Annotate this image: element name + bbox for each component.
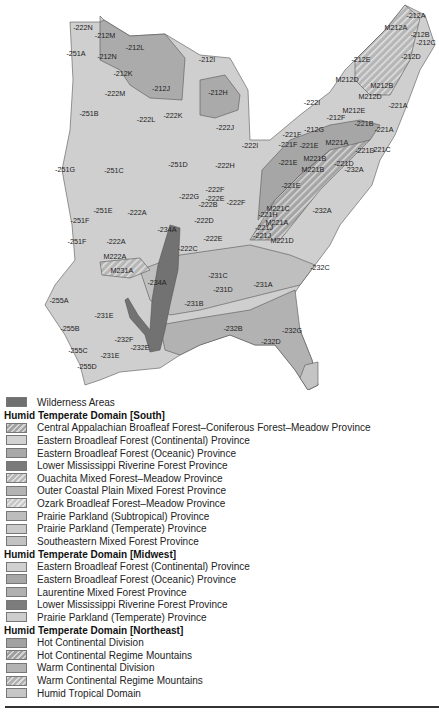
legend-group-title: Humid Temperate Domain [South] (4, 409, 436, 422)
color-swatch (6, 435, 27, 445)
legend-item: Prairie Parkland (Temperate) Province (6, 522, 436, 535)
region-label: -222H (215, 161, 235, 170)
region-label: -212N (97, 52, 117, 61)
region-label: -251F (71, 216, 90, 225)
legend-label: Eastern Broadleaf Forest (Continental) P… (37, 435, 250, 446)
color-swatch (6, 536, 27, 546)
legend-item: Eastern Broadleaf Forest (Oceanic) Provi… (6, 447, 436, 460)
region-label: -212E (351, 55, 370, 64)
region-label: -212F (327, 113, 346, 122)
region-label: -221E (299, 141, 318, 150)
region-label: -222B (198, 200, 217, 209)
region-label: -232B (223, 324, 242, 333)
legend-item: Laurentine Mixed Forest Province (6, 586, 436, 599)
region-label: -221E (278, 158, 297, 167)
region-label: -212K (113, 69, 132, 78)
region-label: M221A (326, 138, 349, 147)
color-swatch (6, 612, 27, 622)
color-swatch (6, 524, 27, 534)
legend-item: Outer Coastal Plain Mixed Forest Provinc… (6, 485, 436, 498)
legend-item: Humid Tropical Domain (6, 687, 436, 700)
color-swatch (6, 574, 27, 584)
region-label: -251A (66, 49, 85, 58)
region-label: -255C (68, 346, 88, 355)
region-label: -221B (354, 119, 373, 128)
legend-groups: Humid Temperate Domain [South]Central Ap… (6, 409, 436, 700)
region-label: M221D (270, 236, 293, 245)
legend-item: Prairie Parkland (Subtropical) Province (6, 510, 436, 523)
region-label: -221A (388, 101, 407, 110)
region-label: -212I (199, 55, 215, 64)
region-label: -255A (49, 296, 68, 305)
legend-item: Eastern Broadleaf Forest (Oceanic) Provi… (6, 573, 436, 586)
legend-group-title: Humid Temperate Domain [Northeast] (4, 624, 436, 637)
region-label: -232G (282, 326, 302, 335)
region-label: -222N (73, 23, 93, 32)
legend-item-wilderness: Wilderness Areas (6, 396, 436, 409)
region-label: -232A (344, 165, 363, 174)
region-label: -221A (374, 125, 393, 134)
region-label: -212A (406, 11, 425, 20)
color-swatch (6, 638, 27, 648)
ecoregion-map: -222N-212M-212L-251A-212N-212I-212K-212J… (0, 0, 439, 390)
region-label: -222E (203, 234, 222, 243)
legend-item: Lower Mississippi Riverine Forest Provin… (6, 459, 436, 472)
color-swatch (6, 600, 27, 610)
region-label: -222F (206, 185, 225, 194)
legend-label: Warm Continental Division (37, 662, 154, 673)
region-label: -234A (147, 278, 166, 287)
legend-label: Central Appalachian Broafleaf Forest–Con… (37, 422, 371, 433)
region-label: M212A (385, 23, 408, 32)
region-label: M231A (111, 266, 134, 275)
legend-label: Warm Continental Regime Mountains (37, 675, 203, 686)
region-label: -234A (157, 225, 176, 234)
legend-item: Prairie Parkland (Temperate) Province (6, 611, 436, 624)
legend-label: Laurentine Mixed Forest Province (37, 587, 187, 598)
legend-label: Hot Continental Regime Mountains (37, 650, 192, 661)
hatched-swatch (6, 423, 27, 433)
legend-label: Southeastern Mixed Forest Province (37, 536, 199, 547)
region-label: M212E (343, 106, 366, 115)
region-label: -212J (152, 84, 170, 93)
legend-label: Prairie Parkland (Temperate) Province (37, 612, 207, 623)
region-label: -222M (105, 89, 125, 98)
legend-label: Hot Continental Division (37, 637, 144, 648)
legend-group-title: Humid Temperate Domain [Midwest] (4, 548, 436, 561)
region-label: -221F (279, 140, 298, 149)
region-label: -221E (281, 181, 300, 190)
color-swatch (6, 587, 27, 597)
legend-item: Hot Continental Division (6, 637, 436, 650)
legend-item: Warm Continental Regime Mountains (6, 674, 436, 687)
region-label: -222D (194, 216, 214, 225)
region-label: M221B (302, 165, 325, 174)
region-label: M212D (358, 92, 381, 101)
region-label: -232E (130, 343, 149, 352)
map-legend: Wilderness Areas Humid Temperate Domain … (6, 396, 436, 699)
region-label: -222K (163, 111, 182, 120)
region-label: -231B (184, 299, 203, 308)
legend-item: Eastern Broadleaf Forest (Continental) P… (6, 561, 436, 574)
region-label: -212C (416, 38, 436, 47)
legend-item: Lower Mississippi Riverine Forest Provin… (6, 598, 436, 611)
legend-label: Wilderness Areas (37, 397, 115, 408)
legend-label: Humid Tropical Domain (37, 688, 141, 699)
region-label: -232A (312, 206, 331, 215)
legend-label: Eastern Broadleaf Forest (Oceanic) Provi… (37, 574, 236, 585)
legend-item: Ozark Broadleaf Forest–Meadow Province (6, 497, 436, 510)
region-label: M212B (371, 81, 394, 90)
region-label: -255B (60, 324, 79, 333)
region-label: -251F (68, 237, 87, 246)
legend-item: Ouachita Mixed Forest–Meadow Province (6, 472, 436, 485)
hatched-swatch (6, 676, 27, 686)
region-label: -212G (304, 125, 324, 134)
bottom-rule (5, 706, 439, 708)
legend-label: Ouachita Mixed Forest–Meadow Province (37, 473, 223, 484)
region-label: -212M (95, 31, 115, 40)
region-label: -251C (104, 166, 124, 175)
region-label: -221J (253, 231, 271, 240)
legend-label: Eastern Broadleaf Forest (Continental) P… (37, 561, 250, 572)
color-swatch (6, 461, 27, 471)
region-label: M221B (304, 154, 327, 163)
legend-item: Warm Continental Division (6, 662, 436, 675)
region-label: -231D (213, 285, 233, 294)
